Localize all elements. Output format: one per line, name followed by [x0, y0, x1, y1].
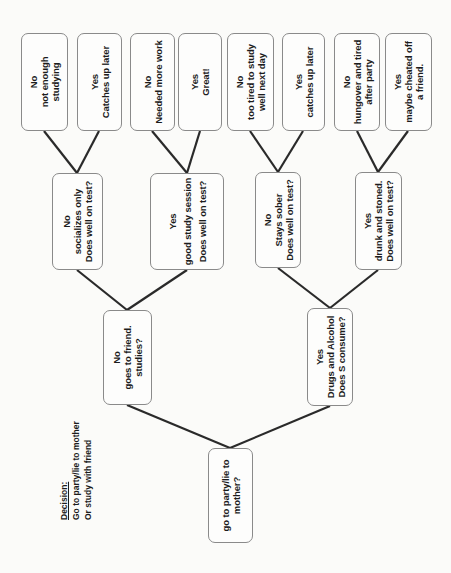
node-stays-sober-label: No Stays sober Does well on test?	[262, 179, 295, 261]
decision-note-title: Decision:	[58, 410, 70, 520]
edge-root-to-goes-to-friend	[127, 405, 230, 448]
edge-friend-to-good-study	[127, 270, 187, 310]
leaf-not-enough-studying: No not enough studying	[21, 33, 68, 131]
edge-drunk-to-hungover	[357, 131, 378, 172]
edge-drugs-to-drunk-stoned	[330, 270, 378, 308]
leaf-catches-up-later-1: Yes Catches up later	[77, 33, 122, 131]
edge-socializes-to-catches-up	[77, 131, 99, 173]
node-goes-to-friend-label: No goes to friend. studies?	[111, 326, 144, 390]
leaf-hungover-and-tired-label: No hungover and tired after party	[341, 40, 374, 124]
node-socializes-only: No socializes only Does well on test?	[52, 173, 103, 270]
node-drugs-and-alcohol-label: Yes Drugs and Alcohol Does S consume?	[314, 316, 347, 398]
decision-note: Decision: Go to party/lie to mother Or s…	[58, 410, 94, 520]
leaf-not-enough-studying-label: No not enough studying	[28, 57, 61, 108]
leaf-maybe-cheated: Yes maybe cheated off a friend.	[385, 33, 432, 131]
edge-drunk-to-cheated	[378, 131, 408, 172]
leaf-too-tired-to-study: No too tired to study well next day	[227, 33, 274, 131]
leaf-needed-more-work-label: No Needed more work	[142, 40, 164, 123]
leaf-great-label: Yes Great!	[189, 68, 211, 95]
edge-socializes-to-not-enough	[44, 131, 77, 173]
edge-friend-to-socializes	[77, 270, 127, 310]
leaf-needed-more-work: No Needed more work	[130, 33, 175, 131]
edge-good-study-to-needed-more	[152, 131, 187, 173]
node-goes-to-friend: No goes to friend. studies?	[103, 310, 152, 405]
leaf-maybe-cheated-label: Yes maybe cheated off a friend.	[392, 41, 425, 123]
leaf-catches-up-later-2-label: Yes catches up later	[293, 47, 315, 118]
scanned-decision-tree-page: Decision: Go to party/lie to mother Or s…	[0, 0, 451, 573]
node-drunk-and-stoned: Yes drunk and stoned. Does well on test?	[355, 172, 402, 270]
decision-tree-canvas: Decision: Go to party/lie to mother Or s…	[0, 0, 451, 573]
leaf-too-tired-to-study-label: No too tired to study well next day	[234, 44, 267, 120]
node-stays-sober: No Stays sober Does well on test?	[255, 172, 301, 268]
edge-drugs-to-stays-sober	[278, 268, 330, 308]
edge-root-to-drugs-alcohol	[230, 406, 330, 448]
node-socializes-only-label: No socializes only Does well on test?	[61, 181, 94, 263]
node-root-label: go to party/lie to mother?	[220, 459, 242, 531]
node-good-study-session: Yes good study session Does well on test…	[150, 173, 224, 270]
node-drunk-and-stoned-label: Yes drunk and stoned. Does well on test?	[362, 180, 395, 262]
leaf-catches-up-later-1-label: Yes Catches up later	[89, 46, 111, 118]
leaf-great: Yes Great!	[178, 33, 222, 131]
edge-sober-to-too-tired	[250, 131, 278, 172]
leaf-hungover-and-tired: No hungover and tired after party	[334, 33, 380, 131]
edge-sober-to-catches-up	[278, 131, 303, 172]
edge-good-study-to-great	[187, 131, 200, 173]
node-root: go to party/lie to mother?	[208, 448, 253, 543]
decision-note-option-1: Go to party/lie to mother	[71, 410, 83, 520]
leaf-catches-up-later-2: Yes catches up later	[282, 33, 325, 131]
node-drugs-and-alcohol: Yes Drugs and Alcohol Does S consume?	[307, 308, 353, 406]
decision-note-option-2: Or study with friend	[83, 410, 95, 520]
node-good-study-session-label: Yes good study session Does well on test…	[165, 178, 210, 265]
